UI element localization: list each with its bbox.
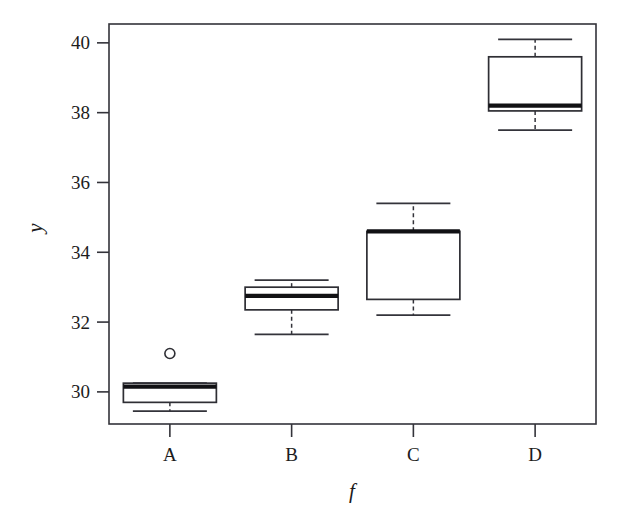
box-series xyxy=(123,39,581,411)
x-axis-ticks: ABCD xyxy=(163,424,542,465)
y-tick-label: 40 xyxy=(71,32,90,53)
y-tick-label: 34 xyxy=(71,242,91,263)
box-group-a xyxy=(123,348,216,411)
boxplot-figure: 303234363840 ABCD y f xyxy=(0,0,630,518)
x-tick-label-a: A xyxy=(163,444,177,465)
x-tick-label-d: D xyxy=(528,444,542,465)
boxplot-canvas: 303234363840 ABCD y f xyxy=(0,0,630,518)
box-group-b xyxy=(245,280,338,334)
y-tick-label: 38 xyxy=(71,102,90,123)
x-tick-label-c: C xyxy=(407,444,420,465)
x-axis-title: f xyxy=(349,479,358,503)
y-axis-ticks: 303234363840 xyxy=(71,32,109,402)
y-axis-title: y xyxy=(23,223,47,235)
y-tick-label: 30 xyxy=(71,381,90,402)
box-body xyxy=(245,287,338,310)
box-group-c xyxy=(367,203,460,315)
box-body xyxy=(489,57,582,111)
box-body xyxy=(367,231,460,299)
y-tick-label: 36 xyxy=(71,172,90,193)
outlier-point xyxy=(165,348,175,358)
y-tick-label: 32 xyxy=(71,312,90,333)
box-group-d xyxy=(489,39,582,130)
x-tick-label-b: B xyxy=(285,444,298,465)
